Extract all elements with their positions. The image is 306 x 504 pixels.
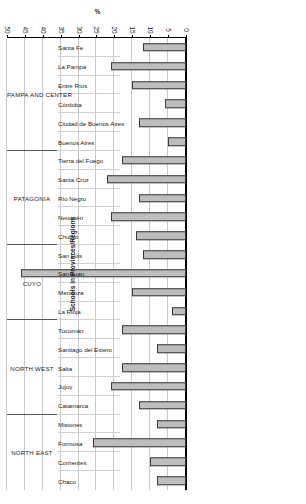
category-label: Tucumán <box>58 323 120 337</box>
bar <box>122 326 186 335</box>
category-separator <box>58 244 120 245</box>
bar <box>157 476 186 485</box>
bar <box>122 363 186 372</box>
category-label: Córdoba <box>58 97 120 111</box>
bar <box>122 156 186 165</box>
bar <box>111 382 186 391</box>
bar <box>111 62 186 71</box>
bar <box>139 119 186 128</box>
category-labels: ChacoCorrientesFormosaMisionesCatamarcaJ… <box>58 38 120 490</box>
category-separator <box>58 320 120 321</box>
category-separator <box>58 263 120 264</box>
category-label: San Luis <box>58 248 120 262</box>
bar <box>165 100 186 109</box>
category-label: Santa Cruz <box>58 172 120 186</box>
category-separator <box>58 451 120 452</box>
category-label: La Pampa <box>58 59 120 73</box>
category-axis-title: Schools in Provinces/Regions <box>7 38 57 490</box>
category-label: Neuquén <box>58 210 120 224</box>
category-separator <box>58 338 120 339</box>
category-separator <box>58 395 120 396</box>
value-axis-title: % <box>8 8 187 15</box>
category-label: Formosa <box>58 436 120 450</box>
category-separator <box>58 56 120 57</box>
category-label: Santa Fe <box>58 40 120 54</box>
category-label: La Rioja <box>58 304 120 318</box>
category-axis-title-text: Schools in Provinces/Regions <box>69 204 76 324</box>
category-label: Salta <box>58 361 120 375</box>
bar <box>111 213 186 222</box>
category-label: Catamarca <box>58 398 120 412</box>
category-separator <box>58 376 120 377</box>
bar <box>132 288 186 297</box>
category-separator <box>58 433 120 434</box>
category-label: Misiones <box>58 417 120 431</box>
tick-label-0: 0 <box>183 19 190 41</box>
category-label: Tierra del Fuego <box>58 153 120 167</box>
category-label: Buenos Aires <box>58 135 120 149</box>
category-separator <box>58 282 120 283</box>
bar <box>157 345 186 354</box>
category-label: San Juan <box>58 266 120 280</box>
category-separator <box>58 357 120 358</box>
category-separator <box>58 301 120 302</box>
category-separator <box>58 470 120 471</box>
category-label: Santiago del Estero <box>58 342 120 356</box>
bar <box>136 232 186 241</box>
category-label: Corrientes <box>58 455 120 469</box>
category-separator <box>58 112 120 113</box>
tick-label-10: 10 <box>147 19 154 41</box>
category-separator <box>58 188 120 189</box>
bar <box>132 81 186 90</box>
bar <box>139 194 186 203</box>
bar-chart-figure: 05101520253035404550 % ChacoCorrientesFo… <box>0 0 306 504</box>
bar <box>139 401 186 410</box>
bar <box>157 420 186 429</box>
bar <box>168 137 186 146</box>
category-separator <box>58 225 120 226</box>
category-separator <box>58 207 120 208</box>
bar <box>150 458 186 467</box>
bar <box>143 43 186 52</box>
tick-label-5: 5 <box>165 19 172 41</box>
category-separator <box>58 131 120 132</box>
category-label: Chubut <box>58 229 120 243</box>
category-separator <box>58 75 120 76</box>
category-separator <box>58 414 120 415</box>
bar <box>172 307 186 316</box>
category-label: Ciudad de Buenos Aires <box>58 116 120 130</box>
category-label: Río Negro <box>58 191 120 205</box>
tick-label-15: 15 <box>129 19 136 41</box>
category-label: Chaco <box>58 474 120 488</box>
category-separator <box>58 150 120 151</box>
category-label: Jujuy <box>58 379 120 393</box>
category-separator <box>58 169 120 170</box>
category-label: Mendoza <box>58 285 120 299</box>
bar <box>143 250 186 259</box>
